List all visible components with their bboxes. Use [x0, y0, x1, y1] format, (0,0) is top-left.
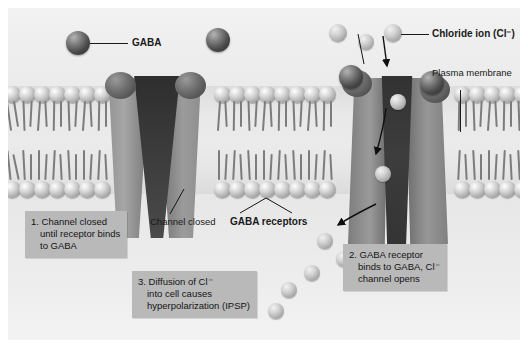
gaba-label: GABA: [132, 37, 161, 49]
diagram-figure: GABA Chloride ion (Cl⁻) Plasma membrane …: [8, 8, 520, 340]
plasma-membrane-label: Plasma membrane: [432, 67, 490, 79]
leader-gaba-receptors: [240, 198, 292, 213]
channel-closed-label: Channel closed: [150, 216, 216, 228]
step-3-box: 3. Diffusion of Cl⁻ into cell causes hyp…: [132, 271, 257, 318]
step-2-box: 2. GABA receptor binds to GABA, Cl⁻ chan…: [343, 244, 447, 291]
chloride-ion-label: Chloride ion (Cl⁻): [432, 28, 515, 40]
leader-chloride-pointer: [358, 34, 364, 64]
step-1-box: 1. Channel closed until receptor binds t…: [25, 211, 127, 258]
leader-channel-closed: [170, 189, 184, 214]
gaba-receptors-label: GABA receptors: [230, 216, 302, 228]
